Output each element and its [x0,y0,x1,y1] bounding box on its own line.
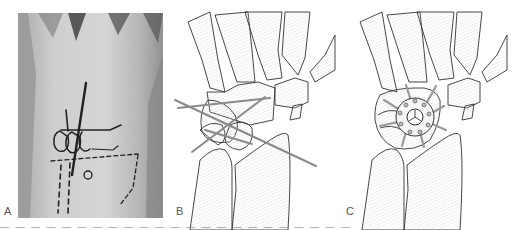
carpal-diagram-with-plate [340,0,515,230]
panel-label-c: C [346,205,354,217]
figure-caption-partial: — — — — — — — — — — — — — — — — — — — — … [0,225,515,230]
panel-a: A [0,0,170,230]
panel-label-b: B [176,205,183,217]
wrist-photograph [18,13,163,218]
carpal-diagram-with-guides [170,0,340,230]
panel-c: C [340,0,515,230]
panel-label-a: A [4,205,11,217]
circular-plate [396,98,434,136]
panel-b: B [170,0,340,230]
